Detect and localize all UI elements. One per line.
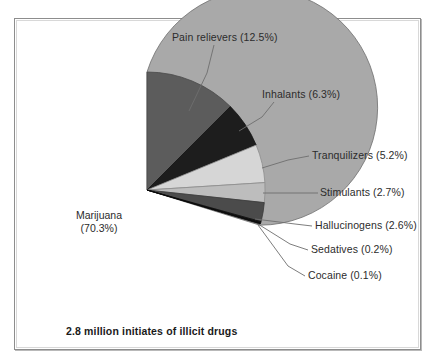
leader-line-sedatives (258, 224, 308, 250)
pie-label-pain-relievers: Pain relievers (12.5%) (172, 31, 278, 43)
pie-label-stimulants: Stimulants (2.7%) (320, 186, 405, 198)
pie-label-hallucinogens: Hallucinogens (2.6%) (315, 219, 417, 231)
leader-line-cocaine (258, 225, 305, 276)
pie-label-marijuana: Marijuana (70.3%) (44, 209, 154, 235)
pie-label-marijuana-value: (70.3%) (44, 222, 154, 235)
chart-caption: 2.8 million initiates of illicit drugs (66, 325, 237, 337)
pie-label-inhalants: Inhalants (6.3%) (262, 88, 340, 100)
pie-label-marijuana-name: Marijuana (44, 209, 154, 222)
pie-label-tranquilizers: Tranquilizers (5.2%) (312, 149, 408, 161)
pie-label-cocaine: Cocaine (0.1%) (308, 269, 382, 281)
pie-chart-figure: Pain relievers (12.5%) Inhalants (6.3%) … (0, 0, 432, 362)
pie-label-sedatives: Sedatives (0.2%) (311, 243, 393, 255)
pie-chart-plot (0, 0, 432, 362)
